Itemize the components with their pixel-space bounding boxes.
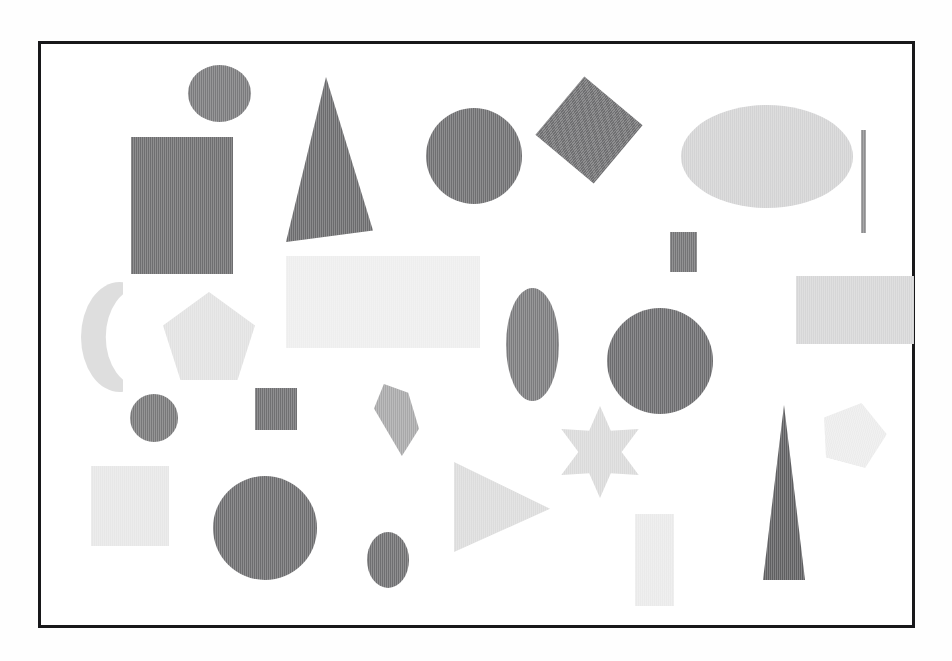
shape-circle-1 [188, 65, 251, 122]
shape-quadrilateral-17 [374, 384, 419, 456]
shape-circle-22 [213, 476, 317, 580]
shape-rectangle-20 [91, 466, 169, 546]
shape-triangle-23 [763, 405, 805, 580]
shape-pentagon-19 [814, 395, 893, 472]
shape-pentagon-12 [163, 292, 255, 380]
shape-circle-14 [607, 308, 713, 414]
shape-ellipse-24 [367, 532, 409, 588]
shape-rectangle-8 [670, 232, 697, 272]
shape-circle-4 [426, 108, 522, 204]
shape-triangle-21 [454, 462, 550, 552]
figure-caption [44, 640, 344, 654]
figure-frame [38, 41, 915, 628]
scanned-page [0, 0, 952, 661]
shape-rectangle-25 [635, 514, 674, 606]
shape-canvas [41, 44, 912, 625]
shape-line-7 [861, 130, 866, 233]
shape-circle-15 [130, 394, 178, 442]
shape-crescent-11 [81, 282, 123, 392]
shape-ellipse-6 [681, 105, 853, 208]
shape-triangle-3 [286, 77, 373, 242]
shape-rectangle-10 [796, 276, 914, 344]
shape-rectangle-9 [286, 256, 480, 348]
shape-rectangle-2 [131, 137, 233, 274]
shape-square-5 [535, 76, 642, 183]
crescent-glyph [81, 282, 123, 392]
shape-square-16 [255, 388, 297, 430]
shape-ellipse-13 [506, 288, 559, 401]
shape-star-18 [555, 406, 645, 498]
